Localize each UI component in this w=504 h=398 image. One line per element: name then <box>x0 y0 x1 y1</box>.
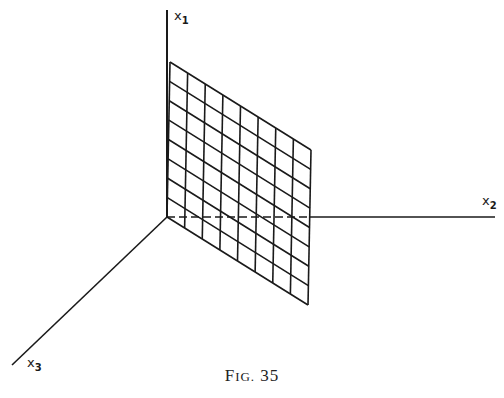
plane-grid <box>167 62 311 305</box>
x2-axis-label: x2 <box>482 193 497 211</box>
coordinate-plane-diagram: x1 x2 x3 <box>0 0 504 398</box>
x1-axis-label: x1 <box>174 8 189 26</box>
caption-prefix-big: F <box>225 366 235 385</box>
figure-caption: FIG. 35 <box>0 366 504 386</box>
x3-axis <box>12 217 167 365</box>
caption-prefix-small: IG. <box>235 369 255 384</box>
caption-number: 35 <box>260 366 279 385</box>
